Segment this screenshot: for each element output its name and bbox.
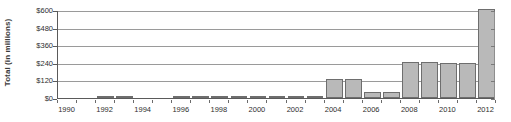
- x-axis-tick-mark: [305, 100, 306, 103]
- y-axis-tick-mark: [53, 99, 57, 100]
- x-axis-tick-label: 2008: [401, 105, 418, 114]
- right-frame-tick-mark: [491, 11, 495, 12]
- x-axis-tick-mark: [209, 100, 210, 103]
- bar-chart-figure: Total (in millions) $0$120$240$360$480$6…: [0, 0, 511, 122]
- x-axis-tick-mark: [438, 100, 439, 103]
- x-axis-tick-mark: [495, 100, 496, 103]
- right-frame-tick-mark: [491, 64, 495, 65]
- x-axis-tick-mark: [400, 100, 401, 103]
- x-axis-tick-mark: [133, 100, 134, 103]
- right-frame-tick-mark: [491, 99, 495, 100]
- x-axis-tick-mark: [190, 100, 191, 103]
- x-axis-tick-label: 1998: [211, 105, 228, 114]
- x-axis-tick-mark: [286, 100, 287, 103]
- x-axis-tick-label: 2006: [363, 105, 380, 114]
- x-axis-tick-label: 2012: [477, 105, 494, 114]
- y-axis-tick-mark: [53, 81, 57, 82]
- x-axis-tick-mark: [247, 100, 248, 103]
- x-axis-tick-mark: [476, 100, 477, 103]
- x-axis-tick-label: 2000: [249, 105, 266, 114]
- x-axis-tick-label: 1990: [58, 105, 75, 114]
- x-axis-tick-mark: [457, 100, 458, 103]
- y-axis-tick-mark: [53, 29, 57, 30]
- x-axis: 1990199219941996199820002002200420062008…: [0, 0, 511, 122]
- x-axis-tick-mark: [171, 100, 172, 103]
- x-axis-tick-mark: [114, 100, 115, 103]
- x-axis-tick-mark: [381, 100, 382, 103]
- x-axis-tick-mark: [228, 100, 229, 103]
- x-axis-tick-mark: [76, 100, 77, 103]
- x-axis-tick-mark: [95, 100, 96, 103]
- right-frame-tick-mark: [491, 81, 495, 82]
- x-axis-tick-label: 1992: [96, 105, 113, 114]
- x-axis-tick-mark: [362, 100, 363, 103]
- x-axis-tick-mark: [343, 100, 344, 103]
- x-axis-tick-mark: [419, 100, 420, 103]
- x-axis-tick-label: 2010: [439, 105, 456, 114]
- x-axis-tick-mark: [152, 100, 153, 103]
- y-axis-tick-mark: [53, 64, 57, 65]
- right-frame-tick-mark: [491, 46, 495, 47]
- x-axis-tick-label: 2004: [325, 105, 342, 114]
- x-axis-tick-label: 1996: [172, 105, 189, 114]
- x-axis-tick-label: 1994: [134, 105, 151, 114]
- y-axis-tick-mark: [53, 11, 57, 12]
- y-axis-tick-mark: [53, 46, 57, 47]
- right-frame-tick-mark: [491, 29, 495, 30]
- x-axis-tick-mark: [57, 100, 58, 103]
- x-axis-tick-label: 2002: [287, 105, 304, 114]
- x-axis-tick-mark: [266, 100, 267, 103]
- x-axis-tick-mark: [324, 100, 325, 103]
